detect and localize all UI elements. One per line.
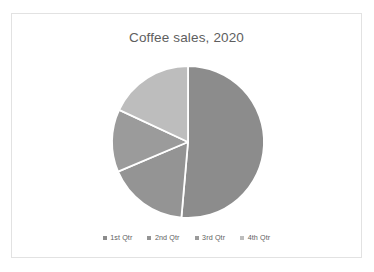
- chart-card: Coffee sales, 2020 1st Qtr2nd Qtr3rd Qtr…: [11, 13, 362, 258]
- chart-legend: 1st Qtr2nd Qtr3rd Qtr4th Qtr: [12, 233, 361, 242]
- legend-swatch-icon: [147, 236, 151, 240]
- pie-slice-group: [112, 66, 264, 218]
- pie-chart[interactable]: [12, 14, 361, 257]
- legend-item[interactable]: 1st Qtr: [103, 233, 133, 242]
- legend-item-label: 1st Qtr: [110, 233, 132, 242]
- pie-slice[interactable]: [181, 66, 264, 218]
- legend-swatch-icon: [103, 236, 107, 240]
- legend-swatch-icon: [240, 236, 244, 240]
- legend-item[interactable]: 3rd Qtr: [195, 233, 226, 242]
- legend-item-label: 4th Qtr: [248, 233, 271, 242]
- legend-item-label: 2nd Qtr: [155, 233, 180, 242]
- legend-item-label: 3rd Qtr: [202, 233, 225, 242]
- legend-swatch-icon: [195, 236, 199, 240]
- legend-item[interactable]: 4th Qtr: [240, 233, 270, 242]
- pie-svg: [12, 14, 363, 259]
- legend-item[interactable]: 2nd Qtr: [147, 233, 179, 242]
